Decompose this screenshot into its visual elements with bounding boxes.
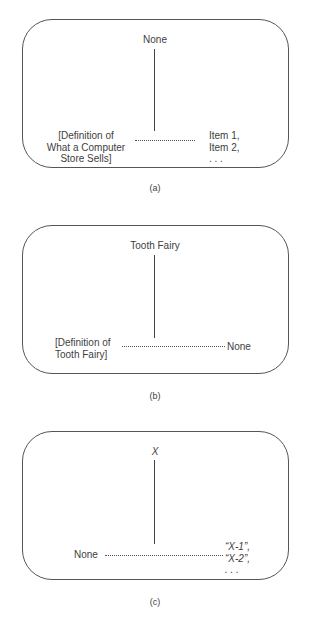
panel-c-right-label: “X-1”, “X-2”, . . .: [225, 541, 265, 576]
panel-b-top-label: Tooth Fairy: [115, 240, 195, 252]
panel-a-caption: (a): [135, 183, 175, 193]
panel-b-vertical-line: [154, 255, 155, 338]
panel-b-dotted-connector: [122, 346, 225, 347]
panel-c-dotted-connector: [105, 555, 223, 556]
panel-c-left-label: None: [74, 549, 104, 561]
panel-b-left-label: [Definition of Tooth Fairy]: [55, 337, 125, 360]
panel-c-caption: (c): [135, 597, 175, 607]
panel-a-top-label: None: [125, 34, 185, 46]
panel-b-right-label: None: [227, 341, 267, 353]
panel-a-vertical-line: [154, 49, 155, 131]
panel-b-caption: (b): [135, 391, 175, 401]
panel-a-left-label: [Definition of What a Computer Store Sel…: [40, 130, 132, 165]
panel-a-dotted-connector: [135, 140, 195, 141]
panel-a-right-label: Item 1, Item 2, . . .: [209, 130, 259, 165]
panel-c-top-label: X: [135, 446, 175, 458]
panel-c-vertical-line: [154, 460, 155, 544]
